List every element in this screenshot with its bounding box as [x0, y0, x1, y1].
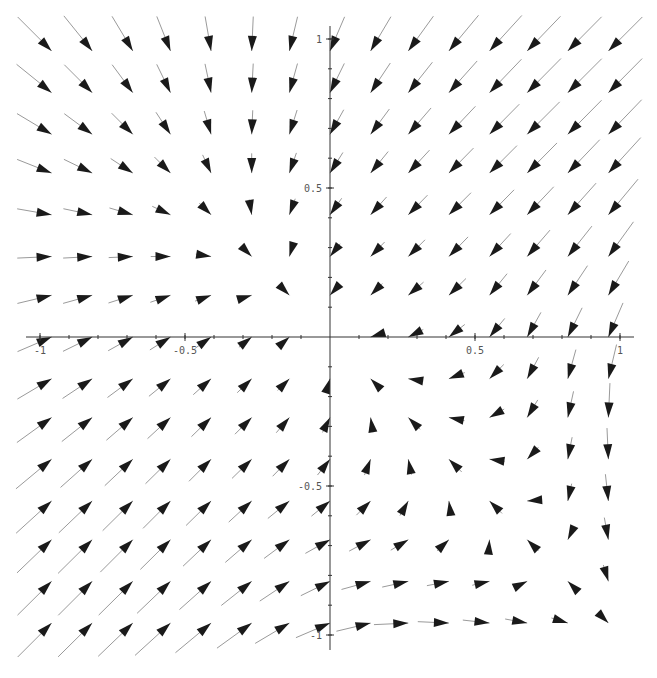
arrow-head-icon — [600, 566, 609, 582]
arrow-head-icon — [276, 417, 289, 431]
arrow-head-icon — [289, 119, 298, 135]
arrow-head-icon — [321, 379, 330, 395]
arrow-head-icon — [158, 119, 170, 134]
arrow-head-icon — [77, 337, 92, 348]
arrow-head-icon — [355, 581, 371, 590]
arrow-head-icon — [397, 501, 408, 516]
arrow-head-icon — [512, 581, 527, 592]
arrow-head-icon — [77, 122, 92, 135]
arrow-head-icon — [330, 281, 343, 295]
arrow-head-icon — [490, 457, 505, 466]
x-tick-label: 1 — [617, 345, 623, 356]
arrow-head-icon — [155, 295, 171, 304]
arrow-head-icon — [568, 524, 579, 539]
arrow-head-icon — [330, 77, 341, 92]
arrow-head-icon — [608, 200, 621, 214]
arrow-head-icon — [371, 120, 384, 135]
arrow-head-icon — [204, 35, 213, 51]
arrow-head-icon — [237, 540, 251, 553]
arrow-head-icon — [161, 35, 171, 51]
arrow-head-icon — [393, 580, 409, 589]
arrow-head-icon — [197, 623, 211, 636]
y-tick-label: 1 — [316, 34, 322, 45]
arrow-head-icon — [371, 328, 387, 337]
arrow-head-icon — [118, 253, 133, 262]
arrow-head-icon — [527, 322, 538, 337]
arrow-head-icon — [77, 162, 92, 173]
arrow-head-icon — [238, 243, 252, 257]
arrow-head-icon — [289, 199, 298, 215]
arrow-head-icon — [449, 324, 464, 337]
arrow-head-icon — [289, 77, 298, 93]
arrow-head-icon — [527, 363, 538, 378]
arrow-head-icon — [248, 36, 257, 51]
arrow-head-icon — [355, 622, 371, 631]
arrow-head-icon — [245, 199, 254, 215]
arrow-head-icon — [393, 619, 408, 628]
arrow-head-icon — [434, 618, 449, 627]
arrow-head-icon — [36, 253, 51, 262]
arrow-head-icon — [527, 242, 540, 256]
arrow-head-icon — [484, 540, 493, 555]
arrow-head-icon — [527, 445, 541, 459]
arrow-head-icon — [449, 37, 462, 51]
y-tick-label: -1 — [310, 630, 322, 641]
arrow-head-icon — [408, 120, 421, 134]
arrow-head-icon — [319, 417, 330, 432]
arrow-head-icon — [237, 623, 252, 635]
arrow-head-icon — [36, 379, 51, 391]
arrow-head-icon — [608, 280, 620, 295]
arrow-head-icon — [474, 580, 490, 589]
arrow-head-icon — [527, 281, 540, 296]
arrow-head-icon — [315, 540, 330, 551]
arrow-head-icon — [568, 280, 580, 295]
arrow-head-icon — [407, 459, 416, 475]
arrow-head-icon — [248, 119, 257, 134]
arrow-head-icon — [567, 402, 576, 418]
arrow-head-icon — [247, 158, 256, 173]
arrow-head-icon — [449, 369, 465, 379]
arrow-head-icon — [289, 35, 298, 51]
arrow-head-icon — [602, 485, 611, 500]
arrow-head-icon — [605, 402, 614, 417]
arrow-head-icon — [446, 501, 455, 516]
arrow-head-icon — [527, 402, 539, 417]
arrow-field — [16, 15, 642, 657]
arrow-head-icon — [408, 377, 424, 386]
arrow-head-icon — [77, 207, 93, 216]
arrow-head-icon — [77, 253, 92, 262]
arrow-head-icon — [371, 159, 384, 173]
arrow-head-icon — [77, 379, 92, 391]
arrow-head-icon — [512, 616, 528, 625]
arrow-head-icon — [527, 495, 542, 504]
arrow-head-icon — [408, 282, 422, 295]
arrow-head-icon — [330, 242, 343, 257]
arrow-head-icon — [567, 485, 576, 501]
arrow-head-icon — [289, 241, 298, 257]
arrow-head-icon — [204, 77, 213, 93]
arrow-head-icon — [361, 459, 371, 475]
arrow-head-icon — [568, 581, 582, 595]
arrow-head-icon — [527, 540, 541, 554]
arrow-head-icon — [608, 363, 617, 379]
arrow-head-icon — [315, 581, 330, 592]
arrow-head-icon — [490, 406, 505, 417]
arrow-head-icon — [195, 295, 211, 304]
arrow-head-icon — [474, 617, 489, 626]
arrow-head-icon — [608, 321, 618, 337]
arrow-head-icon — [275, 337, 289, 350]
y-tick-label: 0.5 — [304, 183, 322, 194]
arrow-head-icon — [36, 208, 52, 217]
arrow-head-icon — [201, 158, 211, 173]
arrow-head-icon — [408, 326, 423, 337]
arrow-head-icon — [371, 379, 385, 393]
arrow-head-icon — [36, 294, 52, 303]
arrow-head-icon — [595, 609, 609, 623]
arrow-head-icon — [248, 77, 257, 92]
arrow-head-icon — [408, 36, 420, 51]
arrow-head-icon — [120, 78, 133, 93]
arrow-head-icon — [568, 322, 579, 337]
arrow-head-icon — [36, 163, 52, 173]
arrow-head-icon — [433, 580, 449, 589]
y-tick-label: -0.5 — [298, 481, 322, 492]
